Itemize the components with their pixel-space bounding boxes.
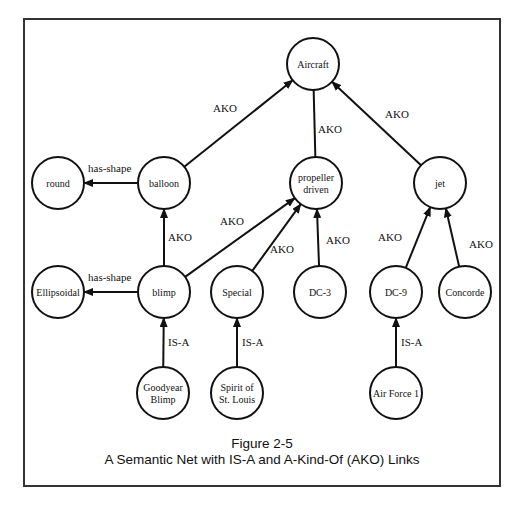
- node-goodyear: GoodyearBlimp: [137, 367, 189, 419]
- edge-concorde-jet: [446, 208, 459, 266]
- node-label: Ellipsoidal: [36, 287, 80, 298]
- edge-label: AKO: [378, 231, 402, 243]
- node-af1: Air Force 1: [370, 367, 422, 419]
- edge-label: AKO: [220, 215, 244, 227]
- node-label: round: [46, 178, 69, 189]
- edge-label: AKO: [270, 243, 294, 255]
- edge-label: AKO: [213, 102, 237, 114]
- edge-propeller-aircraft: [314, 90, 316, 157]
- figure-title: A Semantic Net with IS-A and A-Kind-Of (…: [23, 452, 501, 467]
- edge-jet-aircraft: [332, 82, 421, 165]
- node-label: St. Louis: [219, 394, 255, 405]
- edge-label: AKO: [469, 238, 493, 250]
- node-dc9: DC-9: [370, 266, 422, 318]
- node-label: driven: [303, 184, 329, 195]
- semantic-net: AKOAKOAKOhas-shapeAKOAKOAKOAKOAKOAKOhas-…: [0, 0, 523, 506]
- node-label: Air Force 1: [373, 388, 419, 399]
- edge-dc3-propeller: [317, 209, 319, 266]
- node-blimp: blimp: [138, 266, 190, 318]
- edge-blimp-propeller: [185, 198, 295, 277]
- node-label: DC-9: [385, 287, 407, 298]
- node-label: Goodyear: [143, 382, 183, 393]
- node-propeller: propellerdriven: [290, 157, 342, 209]
- node-dc3: DC-3: [294, 266, 346, 318]
- node-label: Spirit of: [220, 382, 254, 393]
- node-spirit: Spirit ofSt. Louis: [211, 367, 263, 419]
- node-aircraft: Aircraft: [287, 38, 339, 90]
- edge-label: AKO: [326, 234, 350, 246]
- node-special: Special: [211, 266, 263, 318]
- node-label: balloon: [149, 178, 179, 189]
- node-jet: jet: [414, 157, 466, 209]
- node-label: Concorde: [446, 287, 485, 298]
- node-label: Aircraft: [297, 59, 329, 70]
- edge-balloon-aircraft: [184, 80, 292, 167]
- edge-label: AKO: [168, 231, 192, 243]
- edge-label: AKO: [318, 123, 342, 135]
- node-label: propeller: [298, 172, 335, 183]
- node-round: round: [32, 157, 84, 209]
- edge-label: AKO: [385, 108, 409, 120]
- node-concorde: Concorde: [439, 266, 491, 318]
- node-label: Special: [222, 287, 252, 298]
- edge-label: has-shape: [88, 271, 131, 283]
- edge-label: IS-A: [168, 336, 189, 348]
- node-ellipsoidal: Ellipsoidal: [32, 266, 84, 318]
- edge-label: IS-A: [401, 336, 422, 348]
- edge-dc9-jet: [406, 207, 431, 268]
- node-label: DC-3: [309, 287, 331, 298]
- edges: AKOAKOAKOhas-shapeAKOAKOAKOAKOAKOAKOhas-…: [84, 80, 493, 367]
- node-label: Blimp: [150, 394, 175, 405]
- figure-number: Figure 2-5: [23, 436, 501, 451]
- node-balloon: balloon: [138, 157, 190, 209]
- edge-label: IS-A: [242, 336, 263, 348]
- node-label: jet: [434, 178, 445, 189]
- edge-special-propeller: [252, 204, 300, 271]
- node-label: blimp: [152, 287, 175, 298]
- edge-label: has-shape: [88, 162, 131, 174]
